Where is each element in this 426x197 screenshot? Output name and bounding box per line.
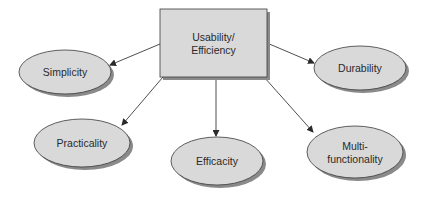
center-node: Usability/Efficiency [160,9,270,80]
node-label-line: Efficacity [196,155,239,167]
arrow-to-multi-functionality [264,77,313,132]
node-label-line: functionality [327,153,383,165]
node-multi-functionality: Multi-functionality [307,126,406,181]
center-node-label-line: Usability/ [192,31,235,43]
node-efficacity: Efficacity [171,137,266,188]
center-node-label: Usability/Efficiency [191,31,236,56]
node-label-line: Practicality [57,137,109,149]
node-label: Simplicity [43,66,88,78]
node-label-line: Durability [338,62,383,74]
node-label-line: Multi- [342,140,368,152]
arrow-to-simplicity [110,44,160,65]
node-label: Durability [338,62,383,74]
arrow-to-practicality [122,77,163,125]
node-practicality: Practicality [34,119,133,170]
arrow-to-durability [267,43,314,63]
node-label: Practicality [57,137,109,149]
node-label-line: Simplicity [43,66,88,78]
nodes: Usability/EfficiencySimplicityDurability… [19,9,409,188]
node-durability: Durability [314,46,409,93]
center-node-label-line: Efficiency [191,44,236,56]
node-label: Efficacity [196,155,239,167]
concept-diagram: Usability/EfficiencySimplicityDurability… [0,0,426,197]
node-simplicity: Simplicity [19,50,114,97]
